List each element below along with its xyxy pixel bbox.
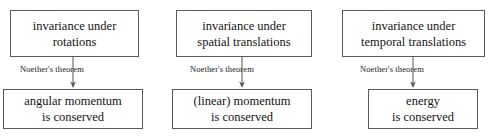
premise-line-2: spatial translations (197, 34, 290, 50)
conclusion-line-2: is conserved (392, 109, 454, 125)
conclusion-line-1: angular momentum (24, 93, 122, 109)
conclusion-line-1: (linear) momentum (194, 93, 291, 109)
conclusion-line-1: energy (406, 93, 440, 109)
conclusion-line-2: is conserved (42, 109, 104, 125)
conclusion-line-2: is conserved (211, 109, 273, 125)
premise-line-2: rotations (53, 34, 97, 50)
edge-label-rotations: Noether's theorem (20, 64, 84, 74)
conclusion-box-linear-momentum: (linear) momentum is conserved (172, 89, 312, 129)
premise-line-2: temporal translations (361, 34, 466, 50)
conclusion-box-energy: energy is conserved (368, 89, 478, 129)
edge-label-temporal-translations: Noether's theorem (360, 64, 424, 74)
premise-line-1: invariance under (33, 18, 117, 34)
premise-line-1: invariance under (202, 18, 286, 34)
premise-box-rotations: invariance under rotations (10, 10, 139, 57)
premise-box-spatial-translations: invariance under spatial translations (176, 10, 312, 57)
premise-line-1: invariance under (372, 18, 456, 34)
diagram-canvas: invariance under rotations Noether's the… (0, 0, 494, 136)
premise-box-temporal-translations: invariance under temporal translations (342, 10, 485, 57)
edge-label-spatial-translations: Noether's theorem (190, 64, 254, 74)
conclusion-box-angular-momentum: angular momentum is conserved (3, 89, 143, 129)
